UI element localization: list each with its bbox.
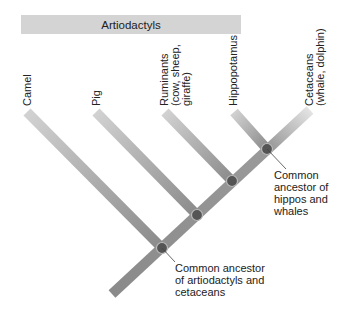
group-label: Artiodactyls (101, 19, 161, 31)
taxon-label-hippopotamus: Hippopotamus (227, 35, 239, 106)
node-pig (192, 210, 203, 221)
annotation-root: Common ancestor of artiodactyls and ceta… (175, 262, 268, 298)
taxon-label-pig: Pig (90, 90, 102, 106)
taxon-label-cetaceans: Cetaceans (whale, dolphin) (303, 28, 326, 106)
artiodactyls-group-bar: Artiodactyls (21, 15, 241, 34)
taxon-label-ruminants: Ruminants (cow, sheep, giraffe) (158, 41, 192, 106)
leader-root (162, 248, 175, 262)
leader-hippo-whale (267, 149, 286, 169)
node-ruminants (227, 176, 238, 187)
phylogenetic-tree: Artiodactyls Camel Pig Ruminants (cow, s… (0, 0, 347, 313)
branch-hippopotamus (234, 112, 267, 149)
branch-camel (27, 112, 162, 248)
branch-ruminants (165, 112, 232, 181)
annotation-hippo-whale: Common ancestor of hippos and whales (273, 169, 331, 217)
taxon-label-camel: Camel (21, 74, 33, 106)
taxon-labels: Camel Pig Ruminants (cow, sheep, giraffe… (21, 28, 326, 106)
